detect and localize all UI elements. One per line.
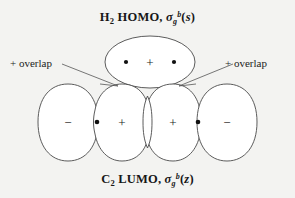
caption-bottom-orbital-type: LUMO [118,172,158,186]
sign-lobe-inner-left: + [118,115,125,130]
nucleus-dot-left [95,120,100,125]
sign-lobe-far-right: − [223,115,230,130]
molecular-orbital-figure: H2 HOMO, σgb(s) + overlap + overlap + − [0,0,295,198]
sign-lobe-inner-right: + [169,115,176,130]
caption-bottom-close-paren: ) [189,172,193,186]
nucleus-dot-top-right [172,60,176,64]
orbital-drawing: + − + + − [0,0,295,198]
caption-bottom-separator: , [158,172,165,186]
sign-lobe-far-left: − [64,115,71,130]
figure-caption-bottom: C2 LUMO, σgb(z) [0,172,295,188]
nucleus-dot-top-left [124,60,128,64]
sign-top-lobe: + [146,55,153,70]
caption-bottom-symmetry-symbol: σ [165,172,172,186]
nucleus-dot-right [196,120,201,125]
